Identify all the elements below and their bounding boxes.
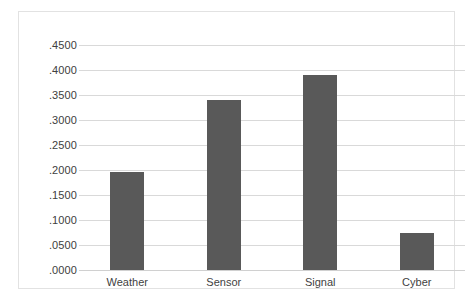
y-axis-tick-label: .0500 <box>37 240 77 251</box>
chart-frame: .0000.0500.1000.1500.2000.2500.3000.3500… <box>18 11 455 289</box>
bar-slot <box>369 45 466 270</box>
y-axis-tick-label: .2000 <box>37 165 77 176</box>
y-axis-tick-labels: .0000.0500.1000.1500.2000.2500.3000.3500… <box>37 45 77 270</box>
bar[interactable] <box>110 172 144 270</box>
y-axis-tick-label: .0000 <box>37 265 77 276</box>
bar-chart: .0000.0500.1000.1500.2000.2500.3000.3500… <box>0 0 474 302</box>
bar-slot <box>272 45 369 270</box>
bar-slot <box>176 45 273 270</box>
x-axis-tick-label: Cyber <box>402 276 431 289</box>
y-axis-tick-label: .1000 <box>37 215 77 226</box>
x-axis-tick-label: Signal <box>305 276 336 289</box>
x-axis-tick-label: Sensor <box>206 276 241 289</box>
x-axis-tick-label: Weather <box>107 276 148 289</box>
y-axis-tick-label: .4000 <box>37 65 77 76</box>
bar[interactable] <box>303 75 337 271</box>
y-axis-tick-label: .2500 <box>37 140 77 151</box>
plot-area <box>79 45 465 270</box>
y-axis-tick-label: .1500 <box>37 190 77 201</box>
bar-slot <box>79 45 176 270</box>
x-axis-tick-labels: WeatherSensorSignalCyber <box>79 276 465 292</box>
bar[interactable] <box>400 233 434 270</box>
y-axis-tick-label: .3500 <box>37 90 77 101</box>
bar[interactable] <box>207 100 241 271</box>
gridline <box>79 270 465 271</box>
bars-group <box>79 45 465 270</box>
y-axis-tick-label: .3000 <box>37 115 77 126</box>
y-axis-tick-label: .4500 <box>37 40 77 51</box>
